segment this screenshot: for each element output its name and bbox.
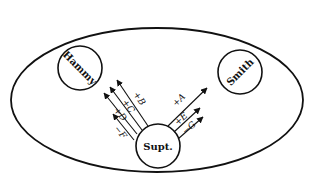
arrows-group: +B+C+D−F+A+E−G	[104, 80, 207, 141]
node-label: Smith	[224, 56, 256, 88]
arrow-label: −F	[112, 124, 129, 142]
node-smith: Smith	[218, 50, 262, 94]
diagram-canvas: HammySmithSupt. +B+C+D−F+A+E−G	[0, 0, 315, 184]
nodes-group: HammySmithSupt.	[58, 46, 262, 168]
influence-diagram: HammySmithSupt. +B+C+D−F+A+E−G	[0, 0, 315, 184]
node-supt: Supt.	[136, 124, 180, 168]
node-label: Hammy	[61, 49, 100, 88]
node-label: Supt.	[143, 141, 173, 152]
arrow-label: +A	[170, 91, 187, 108]
node-hammy: Hammy	[58, 46, 102, 90]
